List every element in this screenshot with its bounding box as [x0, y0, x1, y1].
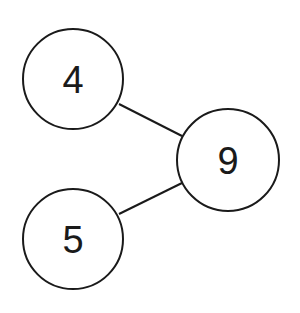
number-bond-diagram: 4 9 5 [0, 0, 300, 313]
part-label-5: 5 [62, 219, 83, 261]
part-circle-4: 4 [23, 29, 123, 129]
connector-4-9 [119, 104, 182, 136]
connector-5-9 [119, 183, 182, 214]
part-label-4: 4 [62, 59, 83, 101]
whole-circle-9: 9 [177, 109, 279, 211]
part-circle-5: 5 [23, 189, 123, 289]
whole-label-9: 9 [217, 140, 238, 182]
